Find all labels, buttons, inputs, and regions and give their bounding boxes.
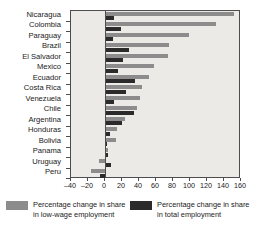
legend-item-total-employment: Percentage change in share in total empl… xyxy=(130,200,254,246)
category-label: Argentina xyxy=(28,116,61,124)
category-label: Brazil xyxy=(42,42,61,50)
value-tick-label: 160 xyxy=(234,182,246,190)
bar-low-wage xyxy=(91,169,105,173)
bar-low-wage xyxy=(105,138,116,142)
bar-low-wage xyxy=(105,12,234,16)
category-label: Chile xyxy=(44,105,61,113)
legend-label-low-wage: Percentage change in share in low-wage e… xyxy=(33,200,130,219)
legend-item-low-wage: Percentage change in share in low-wage e… xyxy=(6,200,130,246)
total-employment-swatch xyxy=(130,201,152,210)
value-tick-label: –20 xyxy=(81,182,93,190)
category-label: Honduras xyxy=(28,126,61,134)
bar-total-employment xyxy=(105,100,114,104)
low-wage-swatch xyxy=(6,201,28,210)
category-label: Colombia xyxy=(29,21,61,29)
bar-total-employment xyxy=(105,111,134,115)
bar-total-employment xyxy=(105,58,123,62)
bar-total-employment xyxy=(105,16,114,20)
bar-low-wage xyxy=(105,117,125,121)
bar-total-employment xyxy=(105,90,126,94)
bar-low-wage xyxy=(105,75,149,79)
bar-total-employment xyxy=(105,27,121,31)
chart-legend: Percentage change in share in low-wage e… xyxy=(6,200,254,246)
category-label: Peru xyxy=(45,168,61,176)
bar-total-employment xyxy=(105,69,118,73)
chart-figure: NicaraguaColombiaParaguayBrazilEl Salvad… xyxy=(0,0,260,250)
plot-area xyxy=(70,10,240,178)
bar-total-employment xyxy=(105,79,135,83)
category-label: Costa Rica xyxy=(24,84,61,92)
bar-low-wage xyxy=(105,106,137,110)
value-tick-label: 0 xyxy=(102,182,106,190)
category-label: Bolivia xyxy=(39,137,61,145)
value-tick-label: 100 xyxy=(183,182,195,190)
category-label: El Salvador xyxy=(22,53,61,61)
category-label: Panama xyxy=(33,147,61,155)
bar-low-wage xyxy=(105,22,216,26)
bar-low-wage xyxy=(105,85,142,89)
category-label: Ecuador xyxy=(33,74,61,82)
value-tick-label: 60 xyxy=(151,182,159,190)
category-label: Uruguay xyxy=(32,158,61,166)
value-axis: –40–20020406080100120140160 xyxy=(70,178,240,196)
bar-low-wage xyxy=(105,127,117,131)
bar-low-wage xyxy=(105,54,168,58)
category-label: Venezuela xyxy=(26,95,61,103)
zero-axis-line xyxy=(105,11,106,177)
value-tick-label: 140 xyxy=(217,182,229,190)
bars-layer xyxy=(71,11,239,177)
legend-label-total-employment: Percentage change in share in total empl… xyxy=(157,200,254,219)
bar-low-wage xyxy=(105,96,140,100)
category-label: Paraguay xyxy=(28,32,61,40)
category-label: Nicaragua xyxy=(26,11,61,19)
bar-total-employment xyxy=(105,37,113,41)
bar-low-wage xyxy=(105,43,169,47)
value-tick-label: 20 xyxy=(117,182,125,190)
value-tick-label: –40 xyxy=(64,182,76,190)
bar-low-wage xyxy=(105,33,189,37)
category-axis: NicaraguaColombiaParaguayBrazilEl Salvad… xyxy=(0,10,66,178)
value-tick-label: 120 xyxy=(200,182,212,190)
bar-low-wage xyxy=(105,64,154,68)
bar-total-employment xyxy=(105,48,129,52)
value-tick-label: 40 xyxy=(134,182,142,190)
category-label: Mexico xyxy=(37,63,61,71)
value-tick-label: 80 xyxy=(168,182,176,190)
bar-total-employment xyxy=(105,121,122,125)
